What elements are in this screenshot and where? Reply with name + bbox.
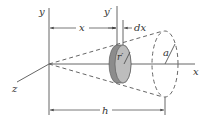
z-axis-label: z	[11, 83, 18, 94]
dx-label: dx	[134, 22, 146, 33]
z-axis	[17, 64, 49, 82]
h-label: h	[102, 105, 108, 116]
radius-r-prime-label: r′	[117, 52, 123, 62]
disk-element: r′	[109, 45, 131, 83]
x-distance-label: x	[79, 22, 85, 33]
x-axis-label: x	[193, 66, 199, 77]
cone-upper-edge	[49, 31, 163, 64]
cone-diagram: y z x a r′ y′ x dx h	[0, 0, 210, 119]
y-prime-label: y′	[103, 6, 113, 17]
radius-a-label: a	[163, 47, 169, 58]
y-axis-label: y	[38, 6, 45, 17]
cone-lower-edge	[49, 64, 163, 97]
